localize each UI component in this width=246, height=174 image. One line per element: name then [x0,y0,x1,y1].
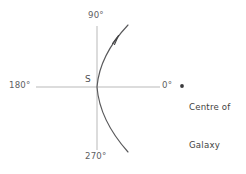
centre-of-galaxy-label-line1: Centre of [189,101,231,114]
diagram-canvas: 90° 270° 180° 0° S Centre of Galaxy [0,0,246,174]
direction-arrow-icon [113,36,119,45]
axis-label-180-degrees: 180° [9,81,31,91]
sun-origin-label: S [85,74,91,84]
axis-label-0-degrees: 0° [162,81,172,91]
axis-label-270-degrees: 270° [85,152,107,162]
centre-of-galaxy-label-line2: Galaxy [189,139,231,152]
galactic-centre-dot-icon [180,84,184,88]
orbit-path-curve [97,25,128,152]
axis-label-90-degrees: 90° [88,11,104,21]
centre-of-galaxy-label: Centre of Galaxy [189,76,231,174]
